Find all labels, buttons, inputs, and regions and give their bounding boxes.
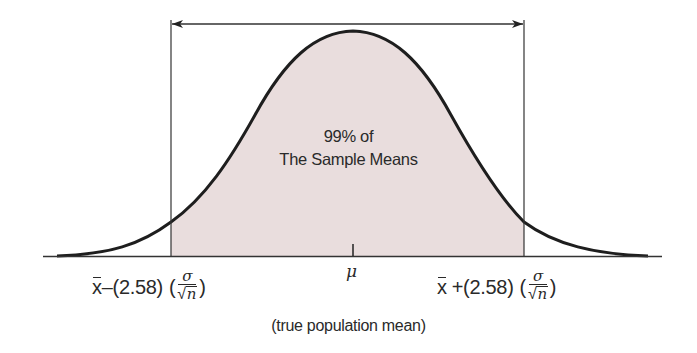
xbar-symbol: x [437,276,447,299]
radical-icon: √ [177,285,185,302]
n-symbol: n [186,286,197,302]
sigma-symbol: σ [529,268,547,285]
mu-symbol: μ [346,261,357,281]
close-paren: ) [550,276,556,299]
shaded-label-line2: The Sample Means [0,150,697,169]
plus-operator: + [452,276,463,299]
n-symbol: n [536,286,547,302]
minus-operator: – [102,276,113,299]
sigma-symbol: σ [178,268,196,285]
shaded-label-line1: 99% of [0,127,697,146]
open-paren: ( [520,276,526,299]
radical-icon: √ [528,285,536,302]
upper-bound-formula: x + (2.58) ( σ √ n ) [437,270,556,304]
lower-bound-formula: x – (2.58) ( σ √ n ) [92,270,206,304]
open-paren: ( [169,276,175,299]
z-value: (2.58) [463,276,513,299]
root-n: √ n [528,285,548,302]
root-n: √ n [177,285,197,302]
population-mean-caption: (true population mean) [0,317,697,335]
sigma-over-root-n: σ √ n [528,268,548,302]
sigma-over-root-n: σ √ n [177,268,197,302]
close-paren: ) [199,276,205,299]
z-value: (2.58) [113,276,163,299]
xbar-symbol: x [92,276,102,299]
